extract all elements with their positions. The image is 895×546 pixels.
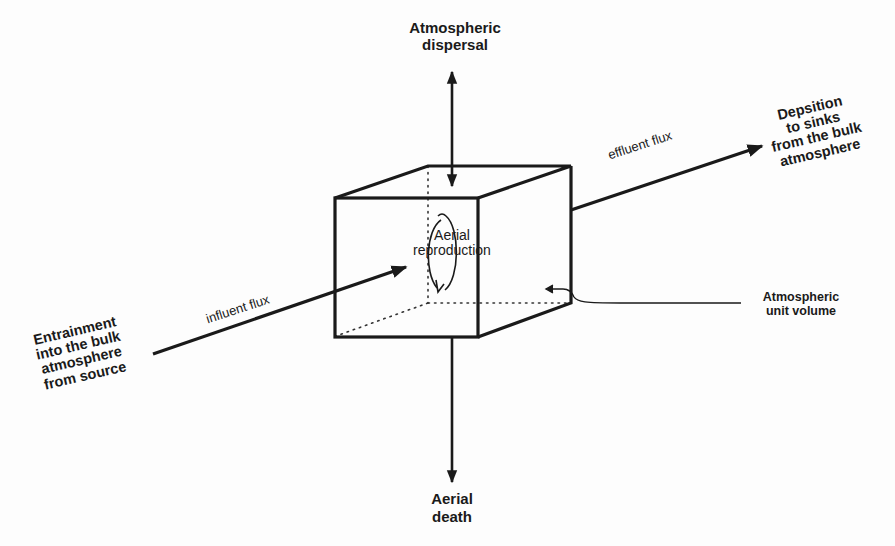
cube-front-face [335,198,478,337]
label-line: Atmospheric [748,290,854,304]
label-line: reproduction [392,243,512,258]
atmospheric-dispersal-label: Atmospheric dispersal [391,20,519,53]
aerial-reproduction-label: Aerial reproduction [392,228,512,259]
label-line: Atmospheric [391,20,519,37]
diagram-graphics [0,0,895,546]
influent-flux-arrow [153,267,406,354]
label-line: dispersal [391,37,519,54]
aerial-death-label: Aerial death [408,490,496,526]
unit-volume-label: Atmospheric unit volume [748,290,854,319]
label-line: death [408,508,496,526]
label-line: Aerial [392,228,512,243]
label-line: Aerial [408,490,496,508]
diagram-canvas: Atmospheric dispersal Aerial death Depsi… [0,0,895,546]
unit-volume-leader [546,285,741,303]
effluent-flux-arrow [571,146,762,210]
label-line: unit volume [748,304,854,318]
